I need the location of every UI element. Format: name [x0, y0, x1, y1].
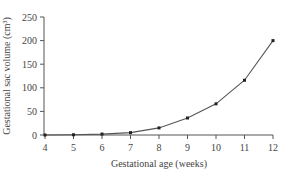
y-tick-label: 150	[22, 59, 37, 70]
data-point-marker	[44, 134, 47, 137]
gestational-sac-volume-chart: 050100150200250456789101112 Gestational …	[0, 0, 286, 180]
x-tick-label: 10	[211, 142, 221, 153]
x-tick-label: 4	[43, 142, 48, 153]
axes: 050100150200250456789101112	[22, 12, 278, 154]
x-axis-label: Gestational age (weeks)	[111, 158, 207, 170]
x-tick-label: 12	[268, 142, 278, 153]
y-tick-label: 200	[22, 35, 37, 46]
data-point-marker	[101, 133, 104, 136]
x-tick-label: 6	[100, 142, 105, 153]
y-tick-label: 0	[32, 130, 37, 141]
data-point-marker	[272, 39, 275, 42]
data-point-marker	[243, 79, 246, 82]
y-axis-label: Gestational sac volume (cm³)	[1, 17, 13, 135]
series-line	[45, 41, 273, 135]
y-tick-label: 100	[22, 82, 37, 93]
data-point-marker	[72, 133, 75, 136]
data-point-marker	[186, 117, 189, 120]
data-point-marker	[158, 126, 161, 129]
y-tick-label: 50	[27, 106, 37, 117]
data-point-marker	[129, 131, 132, 134]
x-tick-label: 5	[71, 142, 76, 153]
x-tick-label: 8	[157, 142, 162, 153]
data-point-marker	[215, 102, 218, 105]
x-tick-label: 9	[185, 142, 190, 153]
data-series	[44, 39, 275, 136]
x-tick-label: 11	[240, 142, 250, 153]
x-tick-label: 7	[128, 142, 133, 153]
y-tick-label: 250	[22, 12, 37, 23]
